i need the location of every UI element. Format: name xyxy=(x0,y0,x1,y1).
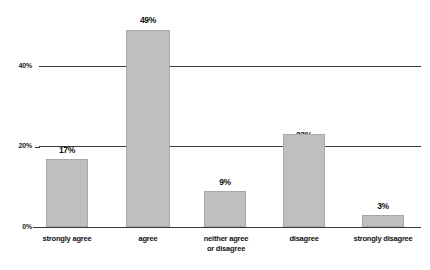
category-label-1: agree xyxy=(108,234,188,244)
bar-value-0: 17% xyxy=(46,145,88,155)
plot-area: 40% 20% 0% 17% strongly agree 49% agree … xyxy=(0,0,430,270)
bar-agree xyxy=(126,30,170,227)
category-label-4: strongly disagree xyxy=(341,234,425,244)
category-label-2: neither agree or disagree xyxy=(186,234,266,254)
ytick-label-40: 40% xyxy=(6,62,32,70)
bar-value-2: 9% xyxy=(204,177,246,187)
ytick-label-20: 20% xyxy=(6,142,32,150)
bar-strongly-disagree xyxy=(362,215,404,227)
x-axis-baseline xyxy=(33,227,421,228)
ytick-label-0: 0% xyxy=(6,223,32,231)
bar-disagree xyxy=(283,134,325,227)
ytick-dash-20 xyxy=(35,147,40,148)
bar-neither-agree-or-disagree xyxy=(204,191,246,227)
gridline-20 xyxy=(39,146,421,147)
ytick-40: 40% xyxy=(0,62,32,70)
ytick-0: 0% xyxy=(0,223,32,231)
gridline-40 xyxy=(39,66,421,67)
bar-strongly-agree xyxy=(46,159,88,227)
bar-value-1: 49% xyxy=(126,15,170,25)
bar-chart: 40% 20% 0% 17% strongly agree 49% agree … xyxy=(0,0,430,270)
bar-value-4: 3% xyxy=(362,201,404,211)
ytick-20: 20% xyxy=(0,142,32,150)
category-label-3: disagree xyxy=(264,234,344,244)
category-label-0: strongly agree xyxy=(25,234,109,244)
